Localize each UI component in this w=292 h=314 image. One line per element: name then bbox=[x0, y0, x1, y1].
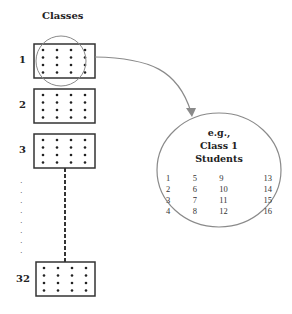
student-row: 3 7 11 15 bbox=[166, 195, 272, 206]
class-label-3: 3 bbox=[19, 144, 26, 155]
ellipsis-dots: ········ bbox=[20, 178, 23, 258]
student-number: 12 bbox=[219, 206, 245, 217]
student-number: 15 bbox=[246, 195, 272, 206]
student-number: 1 bbox=[166, 173, 192, 184]
arrow-head-icon bbox=[186, 108, 196, 117]
student-row: 2 6 10 14 bbox=[166, 184, 272, 195]
class-label-32: 32 bbox=[16, 273, 30, 284]
student-number: 7 bbox=[193, 195, 219, 206]
student-number: 9 bbox=[219, 173, 245, 184]
student-number: 13 bbox=[246, 173, 272, 184]
callout-arrow bbox=[95, 57, 191, 112]
class-label-2: 2 bbox=[19, 99, 26, 110]
callout-class: Class 1 bbox=[159, 139, 279, 152]
student-number: 14 bbox=[246, 184, 272, 195]
student-number: 3 bbox=[166, 195, 192, 206]
student-row: 4 8 12 16 bbox=[166, 206, 272, 217]
student-number: 5 bbox=[193, 173, 219, 184]
student-number: 4 bbox=[166, 206, 192, 217]
student-number-grid: 1 5 9 13 2 6 10 14 3 7 11 15 4 8 12 16 bbox=[166, 173, 272, 217]
student-number: 11 bbox=[219, 195, 245, 206]
classes-title: Classes bbox=[42, 10, 84, 21]
student-number: 16 bbox=[246, 206, 272, 217]
callout-eg: e.g., bbox=[159, 126, 279, 139]
student-number: 8 bbox=[193, 206, 219, 217]
student-number: 10 bbox=[219, 184, 245, 195]
student-number: 2 bbox=[166, 184, 192, 195]
student-row: 1 5 9 13 bbox=[166, 173, 272, 184]
class-label-1: 1 bbox=[19, 54, 26, 65]
student-number: 6 bbox=[193, 184, 219, 195]
callout-students: Students bbox=[159, 152, 279, 165]
